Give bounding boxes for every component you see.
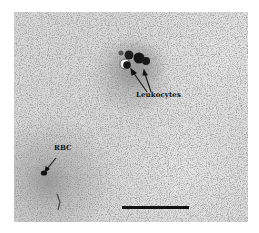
micrograph-texture	[14, 12, 248, 222]
micrograph-image	[14, 12, 248, 222]
rbc-label: RBC	[54, 143, 72, 152]
leukocyte-cluster	[107, 39, 167, 91]
leukocytes-label: Leukocytes	[136, 90, 181, 99]
scale-bar	[122, 206, 189, 209]
